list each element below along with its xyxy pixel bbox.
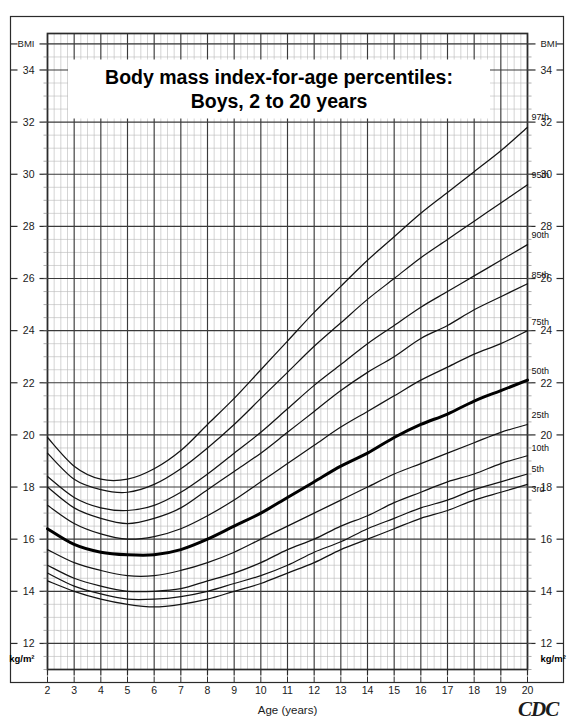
y-tick-label-28-left: 28 [23,220,35,232]
x-tick-label-16: 16 [415,684,427,696]
x-tick-label-17: 17 [442,684,454,696]
x-tick-label-3: 3 [71,684,77,696]
x-tick-label-6: 6 [151,684,157,696]
percentile-label-10th: 10th [532,443,550,453]
chart-title-line-2: Boys, 2 to 20 years [191,90,368,112]
x-tick-label-7: 7 [178,684,184,696]
y-axis-unit-top-left: BMI [18,38,35,49]
cdc-logo-text: CDC [518,697,560,718]
cdc-logo: CDC [516,697,571,718]
y-tick-label-20-left: 20 [23,429,35,441]
y-tick-label-16-right: 16 [541,533,553,545]
y-tick-label-12-left: 12 [23,637,35,649]
percentile-label-75th: 75th [532,317,550,327]
x-tick-label-4: 4 [98,684,104,696]
x-tick-label-9: 9 [231,684,237,696]
x-tick-label-5: 5 [125,684,131,696]
x-tick-label-8: 8 [205,684,211,696]
y-tick-label-20-right: 20 [541,429,553,441]
growth-chart-page: 3434323230302828262624242222202018181616… [0,0,571,718]
percentile-label-97th: 97th [532,112,550,122]
x-tick-label-13: 13 [335,684,347,696]
x-tick-label-18: 18 [468,684,480,696]
y-tick-label-26-left: 26 [23,272,35,284]
bmi-growth-chart: 3434323230302828262624242222202018181616… [0,0,571,718]
x-tick-label-10: 10 [255,684,267,696]
x-tick-label-20: 20 [522,684,534,696]
percentile-label-5th: 5th [532,464,545,474]
y-tick-label-16-left: 16 [23,533,35,545]
percentile-label-50th: 50th [532,366,550,376]
percentile-label-95th: 95th [532,170,550,180]
y-axis-unit-bottom-right: kg/m² [541,653,566,664]
x-tick-label-19: 19 [495,684,507,696]
x-tick-label-2: 2 [45,684,51,696]
x-tick-label-14: 14 [362,684,374,696]
y-axis-unit-top-right: BMI [541,38,558,49]
y-tick-label-24-left: 24 [23,324,35,336]
y-tick-label-12-right: 12 [541,637,553,649]
percentile-label-25th: 25th [532,410,550,420]
y-tick-label-22-right: 22 [541,377,553,389]
y-tick-label-34-left: 34 [23,64,35,76]
y-tick-label-14-left: 14 [23,585,35,597]
x-tick-label-12: 12 [308,684,320,696]
percentile-label-90th: 90th [532,230,550,240]
x-axis-label: Age (years) [258,704,318,716]
y-tick-label-32-left: 32 [23,116,35,128]
y-tick-label-18-left: 18 [23,481,35,493]
y-axis-unit-bottom-left: kg/m² [9,653,34,664]
x-tick-label-11: 11 [282,684,293,696]
x-tick-label-15: 15 [388,684,400,696]
y-tick-label-14-right: 14 [541,585,553,597]
y-tick-label-34-right: 34 [541,64,553,76]
chart-title-line-1: Body mass index-for-age percentiles: [105,66,453,88]
y-tick-label-30-left: 30 [23,168,35,180]
percentile-label-85th: 85th [532,270,550,280]
y-tick-label-22-left: 22 [23,377,35,389]
percentile-label-3rd: 3rd [532,484,545,494]
